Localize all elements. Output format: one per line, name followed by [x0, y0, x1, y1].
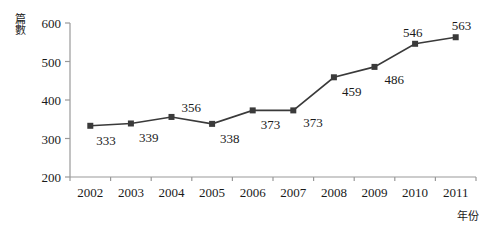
- x-axis-tick-label: 2005: [192, 186, 233, 199]
- x-axis-tick-label: 2007: [273, 186, 314, 199]
- series-marker: [331, 74, 337, 80]
- line-chart: 篇數 200300400500600 200220032004200520062…: [0, 0, 497, 236]
- x-axis-tick-label: 2011: [435, 186, 476, 199]
- series-marker: [290, 107, 296, 113]
- x-axis-tick-label: 2004: [151, 186, 192, 199]
- y-axis-tick-label: 600: [27, 17, 61, 30]
- series-marker: [453, 34, 459, 40]
- y-axis-tick-label: 200: [27, 171, 61, 184]
- data-point-label: 373: [303, 116, 323, 129]
- data-point-label: 338: [220, 132, 240, 145]
- series-marker: [128, 120, 134, 126]
- x-axis-tick-label: 2002: [70, 186, 111, 199]
- x-axis-title: 年份: [457, 210, 479, 222]
- series-marker: [250, 107, 256, 113]
- data-point-label: 546: [403, 26, 423, 39]
- data-point-label: 486: [385, 73, 405, 86]
- data-point-label: 339: [139, 131, 159, 144]
- x-axis-tick-label: 2009: [354, 186, 395, 199]
- data-point-label: 333: [96, 134, 116, 147]
- x-axis-tick-label: 2008: [314, 186, 355, 199]
- y-axis-tick-label: 500: [27, 56, 61, 69]
- data-point-label: 459: [342, 85, 362, 98]
- data-point-label: 356: [182, 101, 202, 114]
- data-point-label: 563: [452, 19, 472, 32]
- x-axis-tick-label: 2003: [111, 186, 152, 199]
- series-marker: [209, 121, 215, 127]
- y-axis-tick-label: 300: [27, 133, 61, 146]
- data-point-label: 373: [261, 118, 281, 131]
- x-axis-tick-label: 2006: [232, 186, 273, 199]
- series-marker: [372, 64, 378, 70]
- series-marker: [169, 114, 175, 120]
- series-marker: [87, 123, 93, 129]
- x-axis-tick-label: 2010: [395, 186, 436, 199]
- y-axis-tick-label: 400: [27, 94, 61, 107]
- series-marker: [412, 41, 418, 47]
